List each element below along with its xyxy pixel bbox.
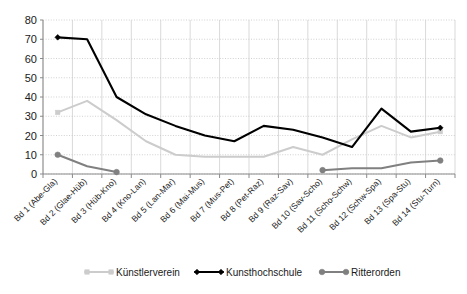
y-axis-tick-label: 0 [31,168,37,180]
y-axis-tick-label: 30 [25,110,37,122]
y-axis-tick-labels: 01020304050607080 [25,14,37,180]
data-point-marker [55,35,61,41]
x-axis-tick-label: Bd 12 (Schw-Spa) [327,176,383,232]
legend-item-2[interactable]: Kunsthochschule [194,267,302,278]
legend-label: Künstlerverein [116,267,180,278]
data-point-marker [343,269,349,275]
y-axis-tick-label: 20 [25,130,37,142]
data-point-marker [194,269,200,275]
data-point-marker [320,167,326,173]
y-axis-tick-label: 80 [25,14,37,26]
data-point-marker [218,269,224,275]
data-point-marker [109,270,113,274]
legend-item-1[interactable]: Künstlerverein [85,267,180,278]
series-line [323,161,441,171]
y-axis-tick-label: 70 [25,33,37,45]
legend-label: Ritterorden [351,267,400,278]
chart-canvas: 01020304050607080 Bd 1 (Abe-Gla)Bd 2 (Gl… [0,0,467,294]
data-point-marker [437,158,443,164]
x-axis-tick-label: Bd 10 (Sav-Scho) [269,176,324,231]
line-chart: 01020304050607080 Bd 1 (Abe-Gla)Bd 2 (Gl… [0,0,467,294]
data-point-marker [114,169,120,175]
data-point-marker [85,270,89,274]
data-point-marker [319,269,325,275]
x-axis-tick-labels: Bd 1 (Abe-Gla)Bd 2 (Glae-Hüb)Bd 3 (Hüb-K… [12,176,442,235]
x-axis-tick-label: Bd 11 (Scho-Schw) [295,176,354,235]
y-axis-tick-label: 40 [25,91,37,103]
y-axis-tick-label: 10 [25,149,37,161]
series-line [58,155,117,172]
data-point-marker [56,110,60,114]
data-point-marker [55,152,61,158]
chart-legend: KünstlervereinKunsthochschuleRitterorden [85,267,401,278]
chart-axes [40,20,455,178]
y-axis-tick-label: 60 [25,53,37,65]
y-axis-tick-label: 50 [25,72,37,84]
legend-label: Kunsthochschule [226,267,303,278]
chart-gridlines [43,20,455,174]
legend-item-3[interactable]: Ritterorden [319,267,400,278]
